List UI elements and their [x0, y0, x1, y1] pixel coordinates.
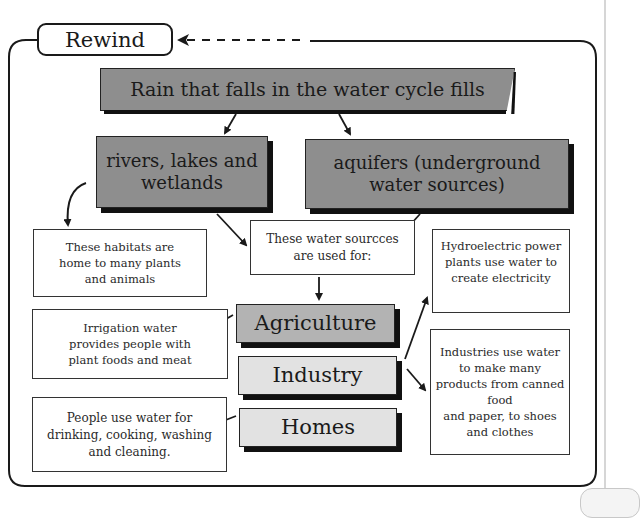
rewind-label: Rewind	[37, 23, 173, 56]
habitat-note-box: These habitats are home to many plants a…	[33, 229, 207, 297]
rain-box-shadow	[104, 110, 506, 114]
water-sources-uses-box: These water sourcces are used for:	[250, 220, 415, 275]
rivers-text: rivers, lakes and wetlands	[106, 150, 257, 193]
homes-note-box: People use water for drinking, cooking, …	[32, 397, 227, 472]
homes-text: Homes	[281, 415, 355, 440]
rain-box: Rain that falls in the water cycle fills	[100, 68, 515, 111]
irrigation-note-box: Irrigation water provides people with pl…	[32, 309, 228, 379]
industry-box: Industry	[238, 356, 397, 395]
aquifers-box: aquifers (underground water sources)	[305, 139, 569, 209]
industries-note-text: Industries use water to make many produc…	[436, 344, 565, 441]
homes-note-text: People use water for drinking, cooking, …	[47, 410, 212, 460]
rivers-lakes-wetlands-box: rivers, lakes and wetlands	[96, 136, 268, 208]
industry-text: Industry	[273, 363, 363, 388]
aquifers-text: aquifers (underground water sources)	[333, 152, 540, 195]
rewind-text: Rewind	[65, 28, 145, 52]
homes-box: Homes	[239, 408, 397, 447]
agriculture-text: Agriculture	[255, 311, 377, 336]
irrigation-note-text: Irrigation water provides people with pl…	[68, 320, 191, 368]
habitat-note-text: These habitats are home to many plants a…	[59, 239, 181, 287]
agriculture-box: Agriculture	[236, 304, 395, 343]
uses-intro-text: These water sourcces are used for:	[266, 231, 398, 265]
hydroelectric-note-box: Hydroelectric power plants use water to …	[432, 229, 570, 313]
industries-note-box: Industries use water to make many produc…	[430, 329, 570, 455]
rain-text: Rain that falls in the water cycle fills	[130, 78, 485, 101]
hydroelectric-note-text: Hydroelectric power plants use water to …	[441, 238, 561, 286]
